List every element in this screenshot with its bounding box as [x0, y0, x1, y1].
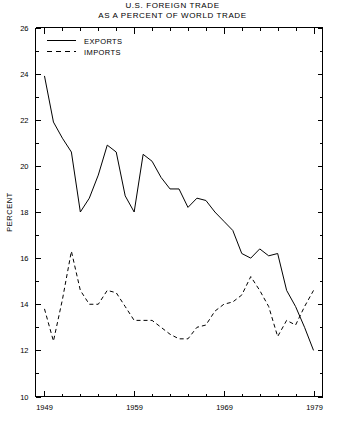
y-tick-label: 14: [20, 300, 28, 309]
y-tick-label: 22: [20, 116, 28, 125]
y-tick-label: 20: [20, 162, 28, 171]
y-tick-label: 16: [20, 254, 28, 263]
chart-container: U.S. FOREIGN TRADE AS A PERCENT OF WORLD…: [0, 0, 345, 428]
series-line-exports: [44, 76, 313, 350]
legend-label-imports: IMPORTS: [84, 48, 121, 57]
y-axis-tick-labels: 101214161820222426: [20, 24, 28, 402]
y-axis-ticks: [36, 29, 323, 398]
y-tick-label: 18: [20, 208, 28, 217]
x-axis-ticks: [45, 28, 315, 397]
x-tick-label: 1969: [216, 403, 233, 412]
y-tick-label: 10: [20, 393, 28, 402]
y-tick-label: 12: [20, 346, 28, 355]
axis-frame: [36, 28, 323, 397]
x-tick-label: 1979: [306, 403, 323, 412]
y-tick-label: 26: [20, 24, 28, 33]
y-axis-title: PERCENT: [5, 192, 14, 231]
x-axis-tick-labels: 1949195919691979: [36, 403, 323, 412]
series-line-imports: [44, 251, 313, 341]
plot-frame: [36, 28, 323, 397]
x-tick-label: 1959: [126, 403, 143, 412]
chart-legend: EXPORTS IMPORTS: [47, 37, 123, 57]
legend-label-exports: EXPORTS: [84, 37, 123, 46]
chart-plot-area: 101214161820222426 1949195919691979 PERC…: [0, 0, 345, 428]
x-tick-label: 1949: [36, 403, 53, 412]
y-tick-label: 24: [20, 70, 28, 79]
